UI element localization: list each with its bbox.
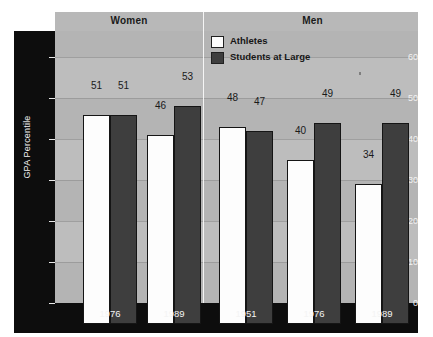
panel-title-women: Women [55,15,203,26]
y-tick-mark [49,139,55,140]
bar-value-label: 49 [308,88,347,99]
top-caption [96,0,346,9]
y-tick-mark [49,303,55,304]
legend-swatch-students [211,52,224,64]
x-tick-label-men-1951: 1951 [216,308,276,319]
x-tick-label-women-1989: 1989 [144,308,204,319]
bar-men-1976-students [314,123,341,324]
bar-men-1951-students [246,131,273,324]
bar-women-1989-students [174,106,201,324]
x-tick-label-men-1976: 1976 [284,308,344,319]
bar-value-label: 49 [376,88,415,99]
legend-label-students: Students at Large [230,51,310,62]
bar-men-1976-athletes [287,160,314,324]
y-tick-mark [49,221,55,222]
bar-value-label: 40 [281,125,320,136]
bar-value-label: 34 [349,149,388,160]
x-tick-label-men-1989: 1989 [352,308,412,319]
bar-women-1989-athletes [147,135,174,324]
y-tick-label: 60 [384,52,418,62]
bar-women-1976-students [110,115,137,324]
bar-women-1976-athletes [83,115,110,324]
bar-value-label: 53 [168,71,207,82]
bar-men-1951-athletes [219,127,246,324]
legend-item-athletes: Athletes [211,35,361,49]
legend-item-students: Students at Large [211,51,361,65]
legend-label-athletes: Athletes [230,35,267,46]
legend: AthletesStudents at Large [211,35,361,67]
bar-value-label: 46 [141,100,180,111]
y-tick-mark [49,57,55,58]
bar-men-1989-athletes [355,184,382,324]
y-axis-title: GPA Percentile [22,72,32,222]
legend-swatch-athletes [211,36,224,48]
y-tick-mark [49,180,55,181]
panel-title-men: Men [207,15,418,26]
panel-divider [203,12,204,303]
y-tick-mark [49,98,55,99]
x-tick-label-women-1976: 1976 [80,308,140,319]
scan-artifact-speck [359,72,361,75]
y-tick-mark [49,262,55,263]
bar-value-label: 51 [104,80,143,91]
bar-chart-figure: Women Men GPA Percentile 0102030405060 5… [14,12,418,324]
bar-value-label: 47 [240,96,279,107]
